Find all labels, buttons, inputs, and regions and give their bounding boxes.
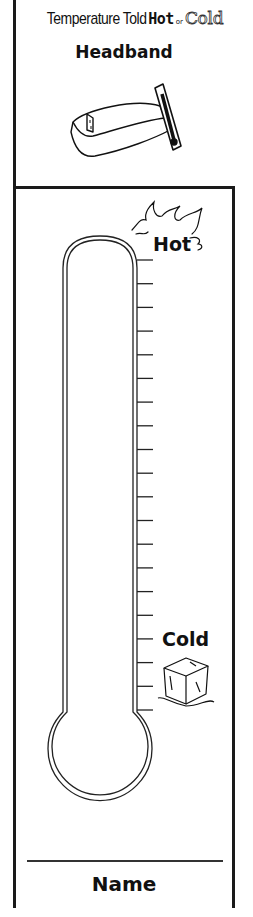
ice-cube-icon xyxy=(156,656,216,708)
hot-label: Hot xyxy=(153,233,191,255)
name-label: Name xyxy=(16,872,232,896)
cold-label: Cold xyxy=(162,628,209,650)
tick-marks xyxy=(137,260,153,710)
thermometer-icon xyxy=(0,0,253,917)
name-line[interactable] xyxy=(27,860,223,862)
